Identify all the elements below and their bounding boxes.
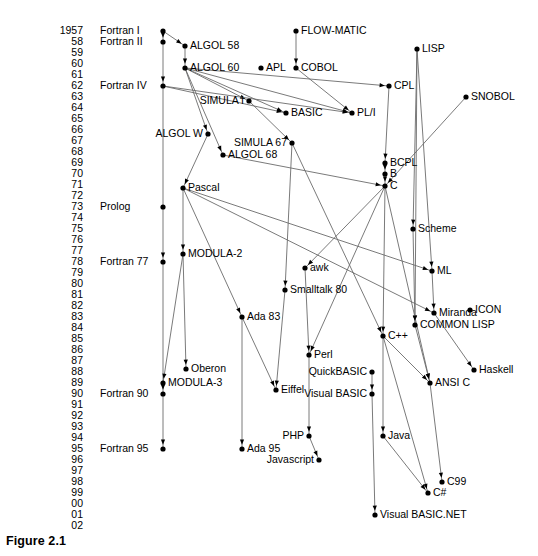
language-label-basic: BASIC <box>291 107 323 118</box>
language-node-c <box>382 183 387 188</box>
edge-arrowhead <box>283 281 287 286</box>
language-node-haskell <box>471 367 476 372</box>
language-node-simula1 <box>246 98 251 103</box>
derivation-edge <box>417 49 432 271</box>
language-label-cpp: C++ <box>388 330 408 341</box>
language-label-modula3: MODULA-3 <box>168 377 222 388</box>
language-node-fortran2 <box>160 39 165 44</box>
language-node-ansic <box>427 380 432 385</box>
language-label-miranda: Miranda <box>439 307 477 318</box>
edge-arrowhead <box>313 451 317 457</box>
edge-arrowhead <box>413 316 417 321</box>
language-node-scheme <box>410 226 415 231</box>
figure-caption: Figure 2.1 <box>6 534 66 548</box>
language-label-ml: ML <box>437 265 452 276</box>
language-label-visualbasic: Visual BASIC <box>304 388 367 399</box>
language-label-haskell: Haskell <box>479 364 513 375</box>
edge-arrowhead <box>439 472 443 477</box>
language-label-modula2: MODULA-2 <box>188 248 242 259</box>
language-label-cobol: COBOL <box>301 62 338 73</box>
edge-arrowhead <box>370 385 374 390</box>
language-label-snobol: SNOBOL <box>471 91 515 102</box>
language-label-simula1: SIMULA I <box>200 95 244 106</box>
edge-arrowhead <box>431 304 435 309</box>
language-label-oberon: Oberon <box>191 363 226 374</box>
language-node-snobol <box>463 94 468 99</box>
language-label-algolw: ALGOL W <box>156 128 203 139</box>
language-label-flowmatic: FLOW-MATIC <box>301 25 367 36</box>
language-node-commonlisp <box>412 322 417 327</box>
edge-arrowhead <box>306 346 310 351</box>
language-node-algol60 <box>182 65 187 70</box>
language-node-algolw <box>205 131 210 136</box>
edge-arrowhead <box>377 327 381 333</box>
derivation-edge <box>292 143 383 336</box>
language-label-algol58: ALGOL 58 <box>190 40 239 51</box>
language-label-vbnet: Visual BASIC.NET <box>380 509 467 520</box>
language-node-pascal <box>180 185 185 190</box>
language-node-flowmatic <box>293 28 298 33</box>
language-node-fortran95 <box>160 446 165 451</box>
edge-arrowhead <box>411 220 415 225</box>
edge-arrowhead <box>383 177 387 182</box>
language-label-commonlisp: COMMON LISP <box>420 319 495 330</box>
edge-arrowhead <box>270 381 274 387</box>
edge-arrowhead <box>381 427 385 432</box>
era-label: Fortran 90 <box>100 388 148 399</box>
language-label-icon: ICON <box>475 304 501 315</box>
edge-arrowhead <box>236 308 240 314</box>
language-label-simula67: SIMULA 67 <box>234 137 287 148</box>
language-node-modula2 <box>180 251 185 256</box>
language-label-apl: APL <box>266 62 286 73</box>
language-node-cpp <box>380 333 385 338</box>
language-node-apl <box>258 65 263 70</box>
language-node-fortran1 <box>160 28 165 33</box>
language-label-pli: PL/I <box>357 107 376 118</box>
language-node-eiffel <box>273 387 278 392</box>
language-label-javascript: Javascript <box>267 454 314 465</box>
derivation-edge <box>430 383 442 482</box>
edge-arrowhead <box>161 77 165 82</box>
language-node-algol68 <box>220 152 225 157</box>
language-node-php <box>306 433 311 438</box>
derivation-edge <box>276 290 285 390</box>
era-label: Fortran IV <box>100 80 147 91</box>
era-label: Fortran II <box>100 36 143 47</box>
language-node-algol58 <box>182 43 187 48</box>
language-node-modula3 <box>160 380 165 385</box>
language-label-pascal: Pascal <box>188 182 220 193</box>
derivation-edge <box>305 268 309 355</box>
language-label-quickbasic: QuickBASIC <box>309 366 367 377</box>
derivation-edge <box>163 31 185 46</box>
language-node-basic <box>283 110 288 115</box>
language-node-miranda <box>431 310 436 315</box>
language-label-scheme: Scheme <box>418 223 457 234</box>
edge-arrowhead <box>217 146 221 152</box>
language-node-simula67 <box>289 140 294 145</box>
edge-arrowhead <box>240 440 244 445</box>
language-label-php: PHP <box>282 430 304 441</box>
language-node-ada83 <box>239 314 244 319</box>
language-label-ansic: ANSI C <box>435 377 470 388</box>
language-node-ada95 <box>239 446 244 451</box>
edge-arrowhead <box>381 327 385 332</box>
language-node-fortran4 <box>160 83 165 88</box>
derivation-edge <box>383 436 428 493</box>
language-label-lisp: LISP <box>422 43 445 54</box>
edge-arrowhead <box>375 182 381 186</box>
edge-arrowhead <box>467 361 472 366</box>
language-label-java: Java <box>388 430 410 441</box>
language-node-bcpl <box>382 160 387 165</box>
edge-arrowhead <box>184 360 188 365</box>
derivation-edge <box>383 336 428 493</box>
language-node-smalltalk <box>282 287 287 292</box>
language-node-c99 <box>439 479 444 484</box>
language-label-eiffel: Eiffel <box>281 384 304 395</box>
language-node-java <box>380 433 385 438</box>
language-node-fortran77 <box>160 259 165 264</box>
language-label-awk: awk <box>310 262 329 273</box>
language-node-b <box>382 171 387 176</box>
language-label-ada83: Ada 83 <box>247 311 280 322</box>
figure-2-1-root: 1957585960616263646566676869707172737475… <box>0 0 538 556</box>
derivation-edge <box>385 86 389 163</box>
